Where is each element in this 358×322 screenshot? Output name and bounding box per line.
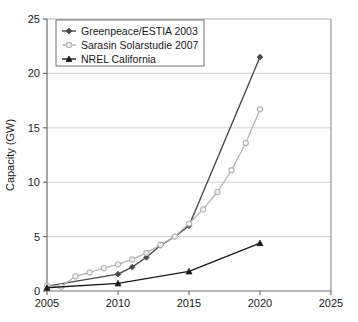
series-1-point-8 [158,242,163,247]
legend: Greenpeace/ESTIA 2003Sarasin Solarstudie… [56,20,204,66]
legend-item-1[interactable]: Sarasin Solarstudie 2007 [62,39,198,51]
y-tick-label-15: 15 [28,122,40,134]
series-0-line [47,57,260,286]
series-1-point-2 [73,274,78,279]
series-1-point-10 [186,221,191,226]
y-tick-label-0: 0 [34,285,40,297]
legend-item-0[interactable]: Greenpeace/ESTIA 2003 [62,25,198,37]
series-1-point-9 [172,234,177,239]
legend-label-2: NREL California [81,53,156,65]
series-1-point-5 [115,262,120,267]
y-tick-label-25: 25 [28,13,40,25]
series-1-point-6 [130,257,135,262]
y-tick-label-5: 5 [34,231,40,243]
x-axis-ticks: 20052010201520202025 [35,291,343,309]
y-tick-label-20: 20 [28,67,40,79]
x-tick-label-2020: 2020 [248,297,272,309]
legend-marker-1 [66,42,71,47]
series-1-point-14 [243,140,248,145]
x-tick-label-2010: 2010 [106,297,130,309]
series-1-line [47,109,260,286]
series-2-triangle [44,240,263,290]
y-tick-label-10: 10 [28,176,40,188]
series-1-point-12 [215,189,220,194]
series-1-point-13 [229,168,234,173]
chart-container: 051015202520052010201520202025Capacity (… [0,0,358,322]
x-tick-label-2025: 2025 [319,297,343,309]
x-tick-label-2005: 2005 [35,297,59,309]
y-axis-ticks: 0510152025 [28,13,47,297]
series-1-point-11 [201,207,206,212]
series-1-circle-open [44,107,262,290]
y-axis-title: Capacity (GW) [4,119,16,191]
x-tick-label-2015: 2015 [177,297,201,309]
line-chart: 051015202520052010201520202025Capacity (… [0,0,358,322]
series-2-point-3 [257,240,263,246]
series-1-point-4 [101,266,106,271]
series-0-point-1 [115,271,121,277]
series-1-point-15 [257,107,262,112]
series-1-point-3 [87,270,92,275]
series-0-point-7 [257,54,263,60]
legend-label-1: Sarasin Solarstudie 2007 [81,39,198,51]
legend-label-0: Greenpeace/ESTIA 2003 [81,25,198,37]
series-1-point-7 [144,250,149,255]
